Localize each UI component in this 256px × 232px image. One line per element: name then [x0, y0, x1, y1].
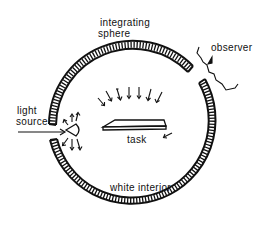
sphere-label-line1: integrating — [100, 17, 150, 28]
observer-label: observer — [211, 42, 252, 53]
task-label: task — [127, 134, 147, 145]
light-source-label-line1: light — [17, 105, 37, 116]
sphere-label-line2: sphere — [98, 28, 130, 39]
light-source-arrow — [18, 129, 65, 135]
lamp-icon — [66, 124, 79, 136]
task-slab — [103, 120, 166, 130]
light-source-label-line2: source — [16, 116, 48, 127]
integrating-sphere-diagram: integrating sphere observer light source… — [0, 0, 256, 232]
interior-label: white interior — [110, 182, 171, 193]
